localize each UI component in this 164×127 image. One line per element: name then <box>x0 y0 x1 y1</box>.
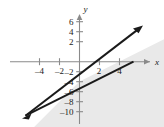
x-axis-label: x <box>154 57 159 67</box>
shaded-region-fill <box>34 39 164 127</box>
y-tick-label: –8 <box>64 97 75 107</box>
y-axis-label: y <box>83 4 88 14</box>
y-tick-label: 2 <box>69 37 74 47</box>
y-tick-label: 4 <box>69 27 74 37</box>
shaded-region <box>34 39 164 127</box>
x-tick-label: 4 <box>117 66 122 76</box>
y-axis-arrow-icon <box>77 14 83 20</box>
y-tick-label: 6 <box>69 17 74 27</box>
x-tick-label: –4 <box>34 66 45 76</box>
y-tick-label: –10 <box>59 107 74 117</box>
coordinate-plane-chart: –4 –2 2 4 6 4 2 –2 –4 –6 –8 –10 y x <box>0 0 164 127</box>
x-tick-label: 2 <box>97 66 102 76</box>
y-tick-label: –4 <box>64 77 75 87</box>
y-tick-label: –6 <box>64 87 75 97</box>
y-tick-label: –2 <box>64 67 74 77</box>
graph-figure: –4 –2 2 4 6 4 2 –2 –4 –6 –8 –10 y x <box>0 0 164 127</box>
x-tick-label: –2 <box>54 66 64 76</box>
